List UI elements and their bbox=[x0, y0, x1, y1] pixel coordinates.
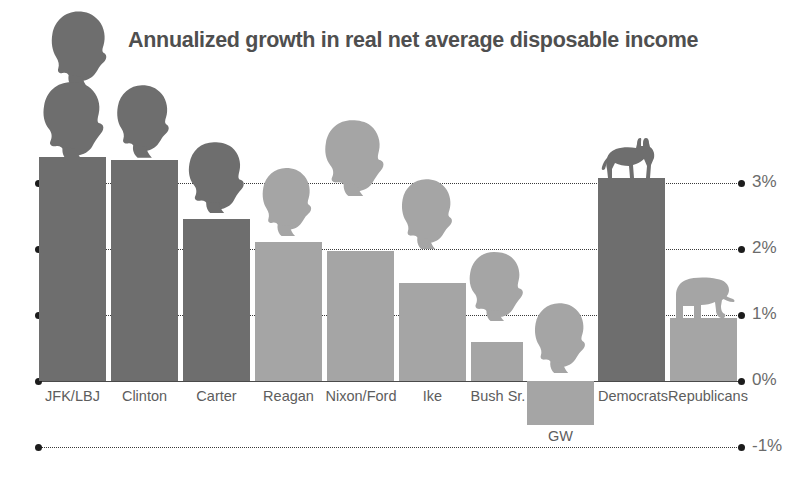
category-label-bush-sr: Bush Sr. bbox=[463, 388, 533, 404]
axis-tick-dot bbox=[738, 246, 745, 253]
category-label-carter: Carter bbox=[183, 388, 250, 404]
y-axis-label-0: 3% bbox=[752, 172, 777, 192]
elephant-mascot-icon bbox=[672, 276, 736, 320]
category-label-republicans: Republicans bbox=[664, 388, 752, 404]
category-label-reagan: Reagan bbox=[255, 388, 322, 404]
category-label-clinton: Clinton bbox=[111, 388, 178, 404]
gridline-0pct bbox=[38, 381, 741, 383]
donkey-mascot-icon bbox=[600, 136, 662, 180]
gridline-neg1pct bbox=[38, 447, 741, 449]
president-head-silhouette-0 bbox=[42, 8, 114, 88]
bar-ike bbox=[399, 283, 466, 381]
president-head-silhouette-6 bbox=[393, 176, 459, 249]
bar-carter bbox=[183, 219, 250, 381]
bar-republicans bbox=[670, 318, 737, 381]
president-head-silhouette-5 bbox=[318, 118, 388, 196]
category-label-jfk-lbj: JFK/LBJ bbox=[39, 388, 106, 404]
y-axis-label-4: -1% bbox=[752, 436, 782, 456]
chart-title: Annualized growth in real net average di… bbox=[128, 28, 698, 53]
chart-canvas: Annualized growth in real net average di… bbox=[0, 0, 803, 486]
axis-tick-dot bbox=[738, 312, 745, 319]
president-head-silhouette-4 bbox=[254, 165, 318, 236]
president-head-silhouette-2 bbox=[108, 82, 176, 158]
y-axis-label-1: 2% bbox=[752, 238, 777, 258]
axis-tick-dot bbox=[738, 444, 745, 451]
bar-bush-sr bbox=[471, 342, 523, 381]
y-axis-label-2: 1% bbox=[752, 304, 777, 324]
category-label-democrats: Democrats bbox=[592, 388, 674, 404]
bar-jfk-lbj bbox=[39, 157, 106, 381]
bar-reagan bbox=[255, 242, 322, 381]
category-label-nixon-ford: Nixon/Ford bbox=[320, 388, 402, 404]
axis-tick-dot bbox=[738, 180, 745, 187]
category-label-gw: GW bbox=[527, 428, 594, 444]
president-head-silhouette-7 bbox=[463, 250, 527, 321]
president-head-silhouette-8 bbox=[526, 300, 592, 373]
bar-nixon-ford bbox=[327, 251, 394, 381]
bar-gw bbox=[527, 381, 594, 425]
president-head-silhouette-3 bbox=[182, 140, 248, 213]
axis-tick-dot bbox=[35, 444, 42, 451]
axis-tick-dot bbox=[738, 378, 745, 385]
president-head-silhouette-1 bbox=[36, 80, 108, 160]
y-axis-label-3: 0% bbox=[752, 370, 777, 390]
category-label-ike: Ike bbox=[399, 388, 466, 404]
bar-democrats bbox=[598, 178, 665, 381]
bar-clinton bbox=[111, 160, 178, 381]
